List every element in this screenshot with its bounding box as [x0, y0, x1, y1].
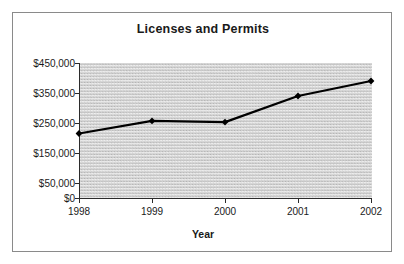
- plot-area: [79, 63, 372, 199]
- y-axis-tick-label: $0: [64, 193, 75, 204]
- x-axis-tick-label: 2001: [287, 206, 309, 217]
- x-axis-tick-label: 1998: [68, 206, 90, 217]
- y-axis-tick-mark: [75, 183, 79, 184]
- x-axis-tick-mark: [79, 199, 80, 203]
- y-axis-tick-label: $450,000: [33, 58, 75, 69]
- x-axis-tick-mark: [152, 199, 153, 203]
- x-axis-tick-label: 1999: [141, 206, 163, 217]
- chart-frame: Licenses and Permits $0$50,000$150,000$2…: [12, 12, 392, 252]
- y-axis-tick-label: $150,000: [33, 148, 75, 159]
- x-axis-tick-mark: [225, 199, 226, 203]
- y-axis-tick-labels: $0$50,000$150,000$250,000$350,000$450,00…: [13, 13, 75, 253]
- x-axis-title: Year: [13, 228, 393, 240]
- x-axis-tick-mark: [298, 199, 299, 203]
- x-axis-tick-label: 2002: [360, 206, 382, 217]
- y-axis-tick-mark: [75, 123, 79, 124]
- y-axis-tick-mark: [75, 153, 79, 154]
- y-axis-tick-label: $250,000: [33, 118, 75, 129]
- y-axis-tick-mark: [75, 93, 79, 94]
- y-axis-tick-label: $50,000: [39, 178, 75, 189]
- x-axis-tick-label: 2000: [214, 206, 236, 217]
- x-axis-tick-mark: [371, 199, 372, 203]
- y-axis-tick-label: $350,000: [33, 88, 75, 99]
- y-axis-tick-mark: [75, 63, 79, 64]
